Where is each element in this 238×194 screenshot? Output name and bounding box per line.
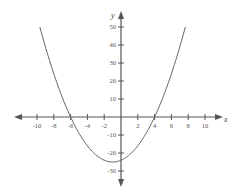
x-tick-label: 6 [170, 122, 174, 129]
y-tick-label: 20 [110, 77, 117, 84]
x-axis-right-arrow-icon [215, 114, 223, 120]
y-axis-up-arrow-icon [118, 11, 124, 19]
y-tick-label: 10 [110, 95, 117, 102]
y-tick-label: -10 [107, 131, 116, 138]
y-tick-label: 40 [110, 41, 117, 48]
x-tick-label: -10 [33, 122, 42, 129]
x-tick-label: 10 [202, 122, 209, 129]
x-tick-label: -4 [85, 122, 91, 129]
x-axis-left-arrow-icon [14, 114, 22, 120]
x-tick-label: 4 [153, 122, 157, 129]
y-tick-label: -30 [107, 167, 116, 174]
y-axis-label: y [110, 11, 115, 20]
x-tick-label: 8 [187, 122, 190, 129]
y-tick-label: 30 [110, 59, 117, 66]
x-axis-label: x [223, 115, 228, 124]
parabola-chart: -10-8-6-4-22468105040302010-10-20-30 x y [0, 0, 238, 194]
y-axis-down-arrow-icon [118, 179, 124, 187]
x-tick-label: 2 [136, 122, 139, 129]
y-tick-label: -20 [107, 149, 116, 156]
x-tick-label: -8 [51, 122, 56, 129]
y-tick-label: 50 [110, 23, 117, 30]
x-tick-label: -2 [101, 122, 106, 129]
